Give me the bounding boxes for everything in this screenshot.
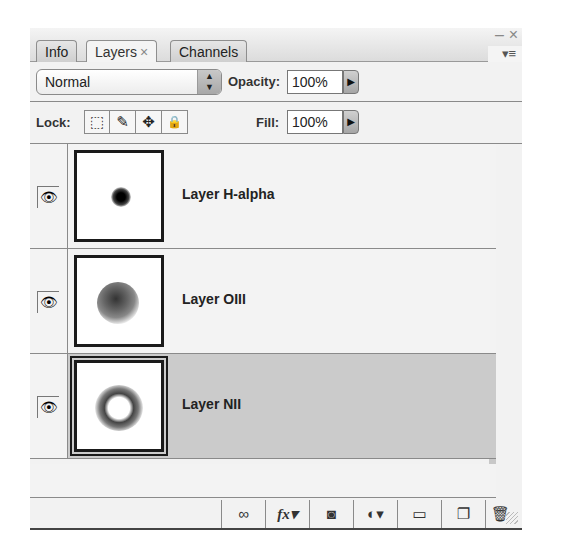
- layer-row-oiii[interactable]: 👁 Layer OIII: [30, 249, 496, 354]
- layer-thumbnail: [74, 150, 164, 242]
- layer-thumbnail: [74, 360, 164, 452]
- fill-input[interactable]: 100%: [287, 110, 343, 134]
- layers-panel: Info Layers× Channels – × ▾≡ Normal ▲▼ O…: [30, 28, 522, 530]
- tab-bar: Info Layers× Channels – × ▾≡: [30, 28, 522, 62]
- layer-list: 👁 Layer H-alpha 👁 Layer OIII 👁 Layer NII: [30, 144, 496, 464]
- chevron-updown-icon: ▲▼: [197, 70, 221, 94]
- tab-channels[interactable]: Channels: [170, 40, 247, 62]
- panel-menu-icon[interactable]: ▾≡: [502, 48, 516, 60]
- fx-icon[interactable]: fx▾: [265, 500, 309, 528]
- panel-body: Normal ▲▼ Opacity: 100% ▶ Lock: ⬚ ✎ ✥ 🔒 …: [30, 62, 522, 530]
- visibility-eye-icon[interactable]: 👁: [37, 396, 59, 418]
- new-layer-icon[interactable]: ❐: [441, 500, 485, 528]
- layer-row-nii[interactable]: 👁 Layer NII: [30, 354, 496, 459]
- fill-slider-arrow-icon[interactable]: ▶: [343, 110, 359, 134]
- resize-grip[interactable]: [506, 512, 518, 524]
- opacity-input[interactable]: 100%: [287, 70, 343, 94]
- adjustment-layer-icon[interactable]: ◐▾: [353, 500, 397, 528]
- blend-mode-select[interactable]: Normal ▲▼: [36, 69, 222, 95]
- nebula-blob: [97, 282, 139, 324]
- minimize-icon[interactable]: –: [495, 28, 504, 42]
- lock-label: Lock:: [36, 115, 71, 130]
- lock-position-icon[interactable]: ✥: [136, 110, 162, 134]
- close-tab-icon[interactable]: ×: [140, 44, 148, 60]
- close-icon[interactable]: ×: [509, 28, 518, 42]
- tab-layers[interactable]: Layers×: [86, 40, 157, 63]
- layer-row-h-alpha[interactable]: 👁 Layer H-alpha: [30, 144, 496, 249]
- nebula-blob: [111, 187, 131, 207]
- layer-name: Layer H-alpha: [182, 186, 275, 202]
- layers-footer-toolbar: ∞ fx▾ ◙ ◐▾ ▭ ❐ 🗑: [30, 498, 522, 530]
- visibility-eye-icon[interactable]: 👁: [37, 186, 59, 208]
- lock-image-pixels-icon[interactable]: ✎: [110, 110, 136, 134]
- nebula-ring: [95, 385, 143, 431]
- layer-name: Layer OIII: [182, 291, 246, 307]
- layer-list-empty-area: [30, 464, 496, 498]
- new-group-icon[interactable]: ▭: [397, 500, 441, 528]
- fill-label: Fill:: [256, 115, 279, 130]
- visibility-eye-icon[interactable]: 👁: [37, 291, 59, 313]
- tab-info[interactable]: Info: [36, 40, 77, 62]
- opacity-slider-arrow-icon[interactable]: ▶: [343, 70, 359, 94]
- opacity-label: Opacity:: [228, 74, 280, 89]
- lock-transparent-pixels-icon[interactable]: ⬚: [84, 110, 110, 134]
- layer-name: Layer NII: [182, 396, 241, 412]
- blend-row: Normal ▲▼ Opacity: 100% ▶: [30, 62, 522, 102]
- link-layers-icon[interactable]: ∞: [221, 500, 265, 528]
- lock-row: Lock: ⬚ ✎ ✥ 🔒 Fill: 100% ▶: [30, 102, 522, 144]
- lock-all-icon[interactable]: 🔒: [162, 110, 188, 134]
- layer-thumbnail: [74, 255, 164, 347]
- layer-mask-icon[interactable]: ◙: [309, 500, 353, 528]
